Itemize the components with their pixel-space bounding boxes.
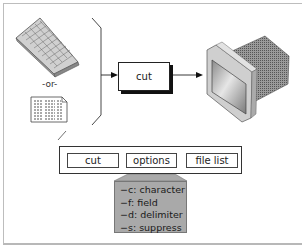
- option-delimiter: −d: delimiter: [120, 209, 186, 222]
- syntax-options-cell: options: [126, 153, 177, 168]
- options-callout: [114, 174, 187, 181]
- options-list-panel: −c: character −f: field −d: delimiter −s…: [114, 181, 187, 233]
- option-suppress: −s: suppress: [120, 222, 186, 235]
- keyboard-icon: [16, 18, 79, 77]
- syntax-filelist-label: file list: [195, 155, 228, 166]
- cut-process-label: cut: [136, 71, 152, 82]
- syntax-command-cell: cut: [67, 153, 119, 168]
- syntax-filelist-cell: file list: [186, 153, 238, 168]
- command-syntax-bar: cut options file list: [59, 146, 242, 174]
- or-label: -or-: [42, 79, 57, 89]
- syntax-command-label: cut: [85, 155, 101, 166]
- option-field: −f: field: [120, 197, 186, 210]
- cut-process-box: cut: [118, 62, 170, 91]
- option-character: −c: character: [120, 184, 186, 197]
- input-bracket: [92, 18, 101, 125]
- arrow-out: [172, 72, 203, 78]
- document-icon: [31, 97, 67, 122]
- monitor-icon: [207, 36, 289, 122]
- arrow-in: [101, 72, 118, 78]
- connector-line: [58, 131, 66, 140]
- syntax-options-label: options: [133, 155, 170, 166]
